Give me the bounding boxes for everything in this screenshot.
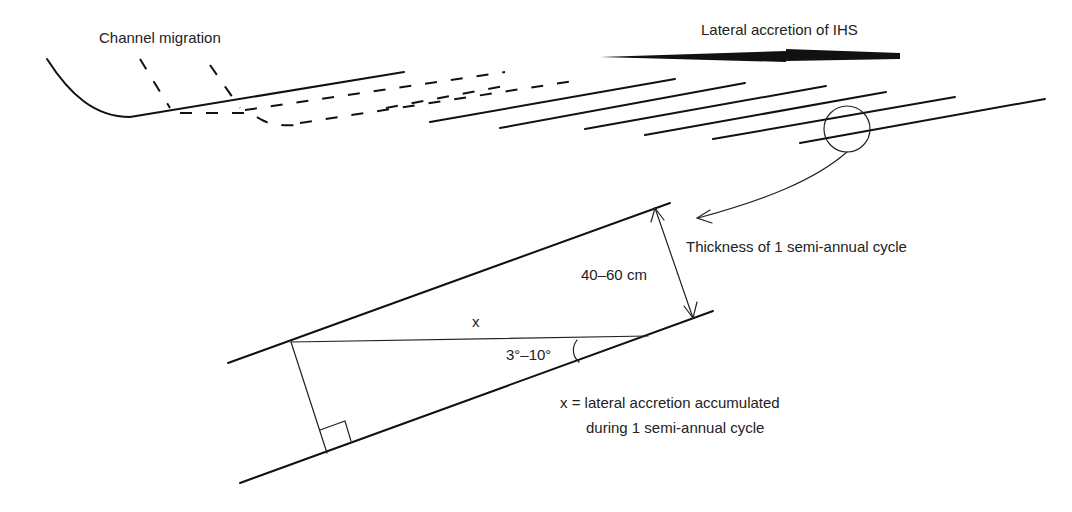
- lateral-accretion-label: Lateral accretion of IHS: [701, 21, 858, 38]
- ihs-surface-5: [713, 97, 955, 139]
- perpendicular-line: [291, 342, 327, 453]
- angle-label: 3°–10°: [506, 346, 551, 363]
- lateral-accretion-arrow-icon: [600, 49, 900, 62]
- right-angle-marker: [320, 421, 351, 441]
- ihs-surface-4: [645, 92, 886, 135]
- lateral-accretion-x-line: [291, 336, 648, 342]
- channel-migration-label: Channel migration: [99, 29, 221, 46]
- x-label: x: [472, 313, 480, 330]
- definition-line-2: during 1 semi-annual cycle: [586, 419, 764, 436]
- dashed-surface-2: [300, 80, 580, 123]
- thickness-callout-label: Thickness of 1 semi-annual cycle: [686, 238, 907, 255]
- ihs-surface-1: [430, 79, 675, 122]
- definition-line-1: x = lateral accretion accumulated: [560, 394, 780, 411]
- ihs-surface-6: [800, 99, 1045, 143]
- thickness-value-label: 40–60 cm: [581, 266, 647, 283]
- callout-circle: [824, 106, 870, 152]
- callout-leader-arrow: [698, 152, 847, 218]
- old-channel-profile-1: [140, 59, 170, 108]
- dashed-surface-3: [386, 85, 510, 108]
- thickness-dimension-line: [655, 208, 693, 318]
- ihs-surface-3: [585, 86, 826, 129]
- ihs-lateral-accretion-diagram: Channel migration Lateral accretion of I…: [0, 0, 1072, 512]
- ihs-surface-2: [500, 83, 745, 128]
- diagram-drawing: Channel migration Lateral accretion of I…: [0, 0, 1072, 512]
- old-channel-profile-3: [180, 113, 300, 125]
- angle-arc: [573, 340, 579, 362]
